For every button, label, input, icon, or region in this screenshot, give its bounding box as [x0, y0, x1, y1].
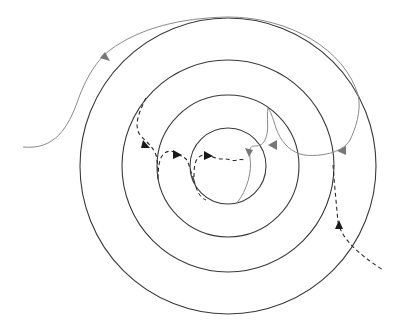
concentric-rings-diagram: [0, 0, 397, 328]
arrow-left-icon: [268, 140, 277, 150]
arrow-right-icon: [204, 151, 213, 160]
arrow-up-icon: [245, 148, 253, 157]
ring-3: [157, 95, 299, 237]
arrow-left-icon: [337, 146, 346, 155]
arrow-right-icon: [173, 150, 182, 159]
dashed-inner-loop: [194, 180, 206, 200]
arrow-up-icon: [335, 220, 343, 229]
concentric-circles: [80, 18, 376, 314]
arrow-up-icon: [100, 52, 110, 61]
ring-2: [122, 60, 334, 272]
ring-1-outer: [80, 18, 376, 314]
ring-4-inner: [190, 128, 266, 204]
